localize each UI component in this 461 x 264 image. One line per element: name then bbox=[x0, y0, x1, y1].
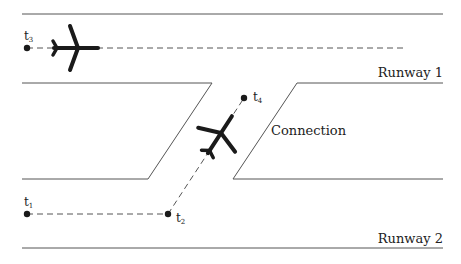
t2-label: t2 bbox=[176, 211, 185, 226]
t1-point bbox=[24, 211, 30, 217]
runway1-label: Runway 1 bbox=[378, 65, 443, 80]
t1-label: t1 bbox=[24, 195, 33, 210]
t3-label: t3 bbox=[24, 29, 33, 44]
runway-diagram: t3 t1 t2 t4 Runway 1 Connection Runway 2 bbox=[0, 0, 461, 264]
left-island-outline bbox=[22, 83, 212, 179]
runway2-label: Runway 2 bbox=[378, 231, 443, 246]
airplane-icon bbox=[189, 104, 250, 166]
connection-label: Connection bbox=[271, 123, 347, 138]
t4-label: t4 bbox=[253, 90, 263, 105]
t3-point bbox=[24, 45, 30, 51]
airplane-icon bbox=[53, 26, 98, 70]
t2-point bbox=[165, 211, 171, 217]
t4-point bbox=[241, 95, 247, 101]
